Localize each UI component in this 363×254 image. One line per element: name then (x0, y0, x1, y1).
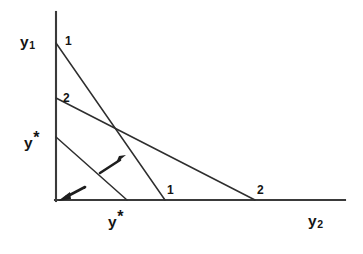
x-star-axis-label-base: y (108, 213, 117, 230)
y1-axis-label-sub: 1 (29, 39, 35, 51)
arrow-upper-right-icon (100, 155, 126, 173)
line-2-label-bottom: 2 (257, 184, 264, 196)
x-star-axis-label-star: * (117, 208, 124, 225)
line-1-label-top: 1 (65, 35, 72, 47)
constraint-line-y-star (56, 137, 127, 200)
y2-axis-label: y2 (308, 213, 323, 230)
line-1-label-bottom: 1 (167, 184, 174, 196)
figure-root: y1 y* y* y2 1 2 1 2 (0, 0, 363, 254)
arrow-lower-left-icon (58, 187, 85, 201)
y1-axis-label-base: y (20, 33, 29, 50)
y1-axis-label: y1 (20, 34, 35, 51)
y2-axis-label-base: y (308, 212, 317, 229)
constraint-line-2 (56, 98, 255, 200)
y-star-axis-label: y* (24, 130, 39, 150)
y2-axis-label-sub: 2 (317, 218, 323, 230)
y-star-axis-label-base: y (24, 134, 33, 151)
y-star-axis-label-star: * (33, 129, 40, 146)
line-2-label-top: 2 (63, 92, 70, 104)
x-star-axis-label: y* (108, 209, 123, 229)
constraint-line-1 (56, 43, 165, 200)
